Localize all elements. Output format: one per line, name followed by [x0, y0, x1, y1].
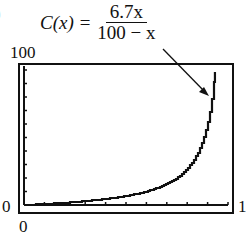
axis-ticks — [24, 70, 228, 205]
chart-plot — [0, 0, 247, 247]
curve-line — [24, 72, 215, 205]
axes — [24, 66, 228, 205]
plot-frame — [19, 64, 233, 213]
annotation-arrow — [163, 49, 209, 96]
